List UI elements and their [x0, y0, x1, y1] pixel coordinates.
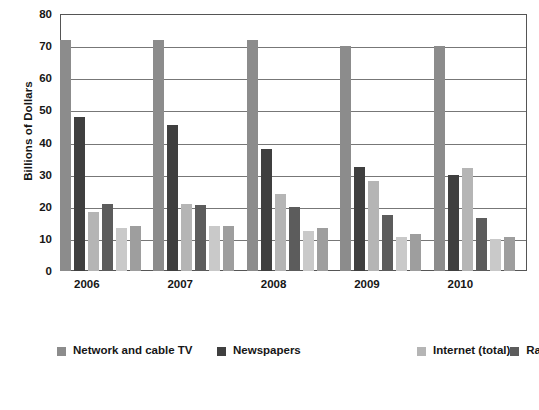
- x-tick-label-text: 2010: [448, 278, 474, 290]
- y-tick-label: 60: [39, 72, 52, 84]
- y-tick-label: 10: [39, 233, 52, 245]
- bar[interactable]: [195, 205, 206, 271]
- bar[interactable]: [368, 181, 379, 271]
- legend-label: Internet (total): [433, 345, 510, 357]
- gridline: [61, 144, 526, 145]
- x-tick-label: 2006: [60, 278, 153, 300]
- bar[interactable]: [88, 212, 99, 271]
- x-tick-label: 2007: [153, 278, 246, 300]
- bar[interactable]: [130, 226, 141, 271]
- y-tick-label: 0: [46, 265, 52, 277]
- x-tick-label: 2010: [434, 278, 527, 300]
- bar[interactable]: [476, 218, 487, 271]
- bar[interactable]: [209, 226, 220, 271]
- bar[interactable]: [434, 46, 445, 271]
- legend-item[interactable]: Internet (total): [417, 340, 510, 362]
- bar[interactable]: [102, 204, 113, 271]
- bar[interactable]: [317, 228, 328, 271]
- y-tick-label: 20: [39, 201, 52, 213]
- legend-label: Radio (total): [526, 345, 539, 357]
- bar[interactable]: [116, 228, 127, 271]
- bar[interactable]: [223, 226, 234, 271]
- bar[interactable]: [289, 207, 300, 271]
- x-axis-tick-labels: 20062007200820092010: [60, 278, 527, 300]
- y-tick-label: 50: [39, 104, 52, 116]
- bar[interactable]: [275, 194, 286, 271]
- x-tick-label-text: 2007: [167, 278, 193, 290]
- x-tick-label: 2008: [247, 278, 340, 300]
- legend-swatch-icon: [217, 347, 226, 356]
- gridline: [61, 47, 526, 48]
- legend-label: Network and cable TV: [73, 345, 193, 357]
- legend-swatch-icon: [57, 347, 66, 356]
- y-tick-label: 70: [39, 40, 52, 52]
- bar[interactable]: [354, 167, 365, 271]
- legend-item[interactable]: Radio (total): [510, 340, 539, 362]
- bar[interactable]: [303, 231, 314, 271]
- bar[interactable]: [261, 149, 272, 271]
- bar[interactable]: [60, 40, 71, 271]
- bar[interactable]: [504, 237, 515, 271]
- y-tick-label: 80: [39, 8, 52, 20]
- bar-chart: Billions of Dollars 80706050403020100 20…: [0, 0, 539, 410]
- bar[interactable]: [448, 175, 459, 271]
- bar[interactable]: [410, 234, 421, 271]
- x-tick-label: 2009: [340, 278, 433, 300]
- bar[interactable]: [247, 40, 258, 271]
- bar[interactable]: [167, 125, 178, 271]
- legend-label: Newspapers: [233, 345, 301, 357]
- bar[interactable]: [490, 239, 501, 271]
- bar[interactable]: [340, 46, 351, 271]
- legend-item[interactable]: Network and cable TV: [57, 340, 217, 362]
- x-tick-label-text: 2006: [74, 278, 100, 290]
- bar[interactable]: [462, 168, 473, 271]
- gridline: [61, 79, 526, 80]
- bar[interactable]: [74, 117, 85, 271]
- x-tick-label-text: 2008: [261, 278, 287, 290]
- legend-swatch-icon: [417, 347, 426, 356]
- gridline: [61, 111, 526, 112]
- chart-legend: Network and cable TVNewspapersInternet (…: [57, 340, 477, 362]
- bar[interactable]: [382, 215, 393, 271]
- legend-swatch-icon: [510, 347, 519, 356]
- bar[interactable]: [181, 204, 192, 271]
- x-tick-label-text: 2009: [354, 278, 380, 290]
- bar[interactable]: [396, 237, 407, 271]
- bar[interactable]: [153, 40, 164, 271]
- y-axis-tick-labels: 80706050403020100: [0, 0, 60, 285]
- y-tick-label: 30: [39, 169, 52, 181]
- legend-item[interactable]: Newspapers: [217, 340, 417, 362]
- y-tick-label: 40: [39, 137, 52, 149]
